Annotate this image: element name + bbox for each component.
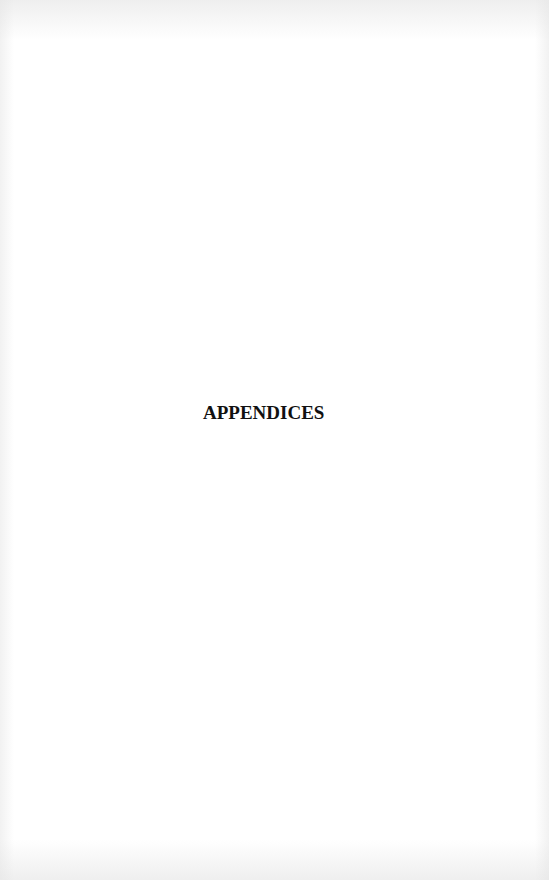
section-heading-appendices: APPENDICES bbox=[203, 401, 324, 425]
document-page: APPENDICES bbox=[0, 0, 549, 880]
scan-shadow-right bbox=[535, 0, 549, 880]
scan-shadow-bottom bbox=[0, 840, 549, 880]
scan-shadow-left bbox=[0, 0, 14, 880]
scan-shadow-top bbox=[0, 0, 549, 40]
